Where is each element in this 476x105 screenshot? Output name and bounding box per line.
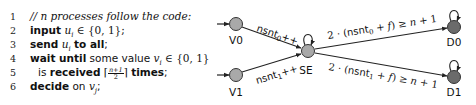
node-label-v1: V1 [229, 86, 243, 98]
node-se [302, 45, 315, 58]
self-loop-d1 [450, 61, 458, 72]
node-label-v0: V0 [229, 34, 243, 46]
self-loop-d0 [450, 11, 458, 22]
self-loop-se [304, 35, 312, 46]
node-v0 [230, 18, 243, 31]
node-label-d1: D1 [447, 86, 462, 98]
edge-label-se-d1: 2 · (nsnt1 + f) ≥ n + 1 [327, 61, 438, 92]
node-label-d0: D0 [447, 36, 462, 48]
node-label-se: SE [299, 64, 312, 76]
node-d0 [448, 21, 461, 34]
node-v1 [230, 69, 243, 82]
state-diagram: V0 V1 SE D0 D1 nsnt0++ nsnt1++ 2 · (nsnt… [0, 0, 476, 105]
edge-label-v0-se: nsnt0++ [255, 22, 300, 48]
node-d1 [448, 71, 461, 84]
